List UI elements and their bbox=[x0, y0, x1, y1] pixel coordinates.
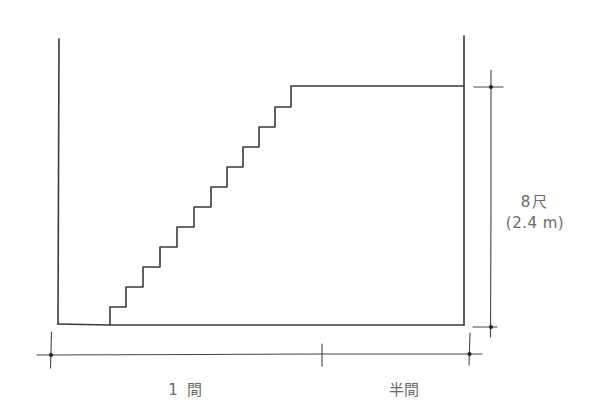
height-tick-top-dot bbox=[489, 85, 493, 89]
room-outline bbox=[58, 36, 464, 325]
stair-profile bbox=[110, 86, 464, 325]
width-dimension-line bbox=[37, 354, 482, 355]
width-tick-right-dot bbox=[468, 352, 472, 356]
width-tick-left-dot bbox=[49, 353, 53, 357]
height-tick-bottom-dot bbox=[489, 325, 493, 329]
height-dimension-line bbox=[491, 70, 492, 337]
height-dimension bbox=[473, 70, 503, 337]
width-label-main: 1 間 bbox=[168, 378, 203, 399]
width-tick-left bbox=[51, 332, 52, 368]
width-dimension bbox=[37, 332, 482, 368]
width-label-half: 半間 bbox=[389, 378, 419, 399]
height-label-shaku: 8尺 bbox=[521, 190, 550, 211]
width-tick-right bbox=[469, 333, 470, 365]
left-wall bbox=[58, 39, 59, 324]
floor-line bbox=[58, 324, 464, 325]
staircase-diagram bbox=[0, 0, 604, 419]
height-label-metric: (2.4 m) bbox=[506, 214, 564, 232]
